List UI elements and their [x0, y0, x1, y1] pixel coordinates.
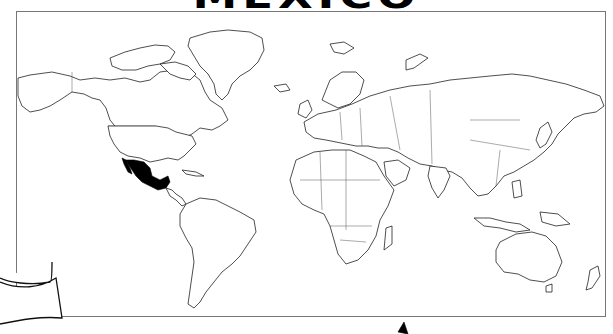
british-isles	[298, 100, 312, 118]
tasmania	[546, 284, 552, 292]
philippines	[512, 180, 522, 198]
paper-curl-tip	[398, 322, 408, 334]
indonesia	[474, 218, 530, 232]
africa	[290, 150, 394, 264]
cuba	[182, 170, 204, 176]
svalbard	[330, 42, 354, 54]
mexico-highlighted	[126, 160, 170, 190]
australia	[496, 232, 562, 282]
india	[428, 166, 450, 198]
paper-curl-decoration	[0, 262, 62, 324]
new-zealand	[586, 266, 600, 290]
novaya-zemlya	[406, 54, 428, 70]
south-america	[180, 198, 256, 308]
world-map	[0, 0, 613, 334]
madagascar	[384, 226, 392, 250]
new-guinea	[540, 212, 570, 226]
central-america	[166, 188, 186, 206]
iceland	[274, 84, 290, 92]
